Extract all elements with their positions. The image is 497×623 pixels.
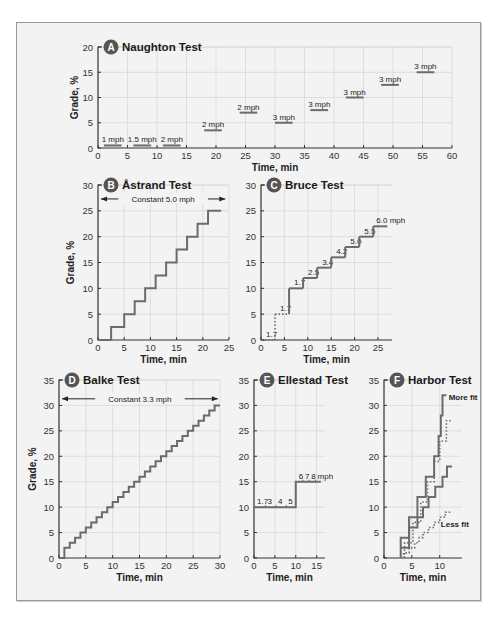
constant-speed-annotation: Constant 5.0 mph: [101, 193, 225, 205]
x-axis-label: Time, min: [266, 572, 313, 583]
speed-label: 1.5 mph: [128, 135, 157, 144]
y-tick-label: 5: [88, 117, 93, 128]
speed-label: 1.7: [266, 330, 278, 339]
y-tick-label: 0: [244, 553, 249, 564]
y-tick-label: 25: [82, 205, 93, 216]
speed-label: 3: [267, 497, 272, 506]
y-tick-label: 20: [43, 451, 54, 462]
y-tick-label: 20: [238, 451, 249, 462]
charts-canvas: 05101520253035404550556005101520Time, mi…: [0, 0, 497, 623]
chart-naughton-test: 05101520253035404550556005101520Time, mi…: [69, 40, 457, 174]
x-axis-label: Time, min: [400, 572, 447, 583]
data-series: 1 mph1.5 mph2 mph2 mph2 mph3 mph3 mph3 m…: [102, 62, 437, 145]
x-tick-label: 5: [125, 150, 130, 161]
speed-label: 1 mph: [102, 135, 124, 144]
y-axis-label: Grade, %: [27, 447, 38, 490]
annotation-text: Constant 5.0 mph: [132, 195, 195, 204]
speed-label: 2 mph: [237, 103, 259, 112]
axes: 0510152025051015202530Time, minGrade, %: [65, 180, 234, 366]
annotation-less-fit: Less fit: [441, 520, 469, 529]
speed-label: 2 mph: [161, 135, 183, 144]
y-tick-label: 15: [245, 257, 256, 268]
x-tick-label: 25: [224, 342, 235, 353]
x-tick-label: 5: [409, 560, 414, 571]
x-tick-label: 5: [83, 560, 88, 571]
y-tick-label: 25: [238, 425, 249, 436]
x-tick-label: 25: [188, 560, 199, 571]
chart-title: Naughton Test: [122, 41, 202, 53]
y-tick-label: 10: [245, 283, 256, 294]
x-tick-label: 10: [290, 560, 301, 571]
x-axis-label: Time, min: [116, 572, 163, 583]
chart-title: Harbor Test: [408, 374, 472, 386]
x-tick-label: 0: [258, 342, 263, 353]
x-tick-label: 0: [251, 560, 256, 571]
x-tick-label: 5: [272, 560, 277, 571]
y-tick-label: 0: [251, 335, 256, 346]
speed-label: 7: [305, 472, 310, 481]
arrow-left-icon: [101, 196, 107, 201]
x-tick-label: 10: [434, 560, 445, 571]
y-tick-label: 5: [251, 309, 256, 320]
speed-label: 2 mph: [202, 120, 224, 129]
x-axis-label: Time, min: [303, 354, 350, 365]
y-tick-label: 35: [238, 375, 249, 386]
x-tick-label: 5: [282, 342, 287, 353]
x-tick-label: 20: [161, 560, 172, 571]
badge-letter: F: [394, 375, 400, 386]
x-tick-label: 20: [349, 342, 360, 353]
speed-label: 6: [299, 472, 304, 481]
x-tick-label: 0: [95, 342, 100, 353]
grid: [98, 47, 452, 148]
y-tick-label: 30: [82, 180, 93, 191]
y-tick-label: 30: [245, 180, 256, 191]
x-axis-label: Time, min: [140, 354, 187, 365]
x-tick-label: 50: [388, 150, 399, 161]
y-tick-label: 20: [82, 231, 93, 242]
chart-harbor-test: 051005101520253035Time, minFHarbor TestM…: [368, 373, 477, 584]
x-tick-label: 55: [417, 150, 428, 161]
x-tick-label: 15: [326, 342, 337, 353]
y-tick-label: 5: [88, 309, 93, 320]
y-tick-label: 35: [368, 375, 379, 386]
arrow-left-icon: [62, 396, 68, 401]
annotation-more-fit: More fit: [449, 393, 478, 402]
y-tick-label: 5: [374, 527, 379, 538]
y-tick-label: 10: [43, 502, 54, 513]
x-tick-label: 15: [171, 342, 182, 353]
x-tick-label: 40: [329, 150, 340, 161]
x-tick-label: 25: [373, 342, 384, 353]
y-tick-label: 15: [82, 67, 93, 78]
chart-title: Bruce Test: [285, 179, 344, 191]
x-tick-label: 15: [181, 150, 192, 161]
y-tick-label: 0: [88, 143, 93, 154]
speed-label: mph: [318, 472, 334, 481]
x-tick-label: 60: [447, 150, 458, 161]
chart-ellestad-test: 05101505101520253035Time, minEEllestad T…: [238, 373, 348, 584]
chart-title: Ellestad Test: [278, 374, 348, 386]
grid: [59, 380, 220, 558]
y-tick-label: 35: [43, 375, 54, 386]
x-tick-label: 5: [122, 342, 127, 353]
speed-label: 5: [288, 497, 293, 506]
speed-label: 3 mph: [379, 75, 401, 84]
x-tick-label: 45: [358, 150, 369, 161]
y-tick-label: 30: [43, 400, 54, 411]
data-series: 1.7345678mph: [254, 472, 333, 507]
speed-label: 3 mph: [344, 88, 366, 97]
y-axis-label: Grade, %: [69, 76, 80, 119]
x-tick-label: 30: [270, 150, 281, 161]
x-axis-label: Time, min: [252, 162, 299, 173]
y-tick-label: 30: [238, 400, 249, 411]
y-tick-label: 5: [49, 527, 54, 538]
x-tick-label: 15: [311, 560, 322, 571]
speed-label: 4: [278, 497, 283, 506]
speed-label: 3 mph: [273, 113, 295, 122]
badge-letter: E: [264, 375, 271, 386]
chart-balke-test: 05101520253005101520253035Time, minGrade…: [27, 373, 225, 584]
x-tick-label: 10: [302, 342, 313, 353]
chart-bruce-test: 0510152025051015202530Time, minCBruce Te…: [245, 178, 405, 366]
x-tick-label: 10: [145, 342, 156, 353]
chart--strand-test: 0510152025051015202530Time, minGrade, %B…: [65, 178, 234, 366]
grid: [98, 185, 229, 340]
